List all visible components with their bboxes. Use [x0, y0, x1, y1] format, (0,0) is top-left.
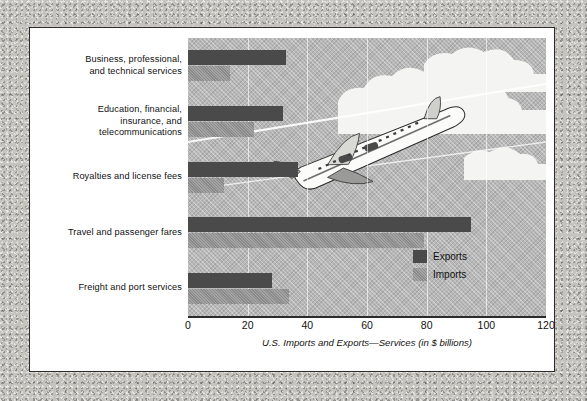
category-label-line: Business, professional,: [32, 54, 182, 66]
axis-caption: U.S. Imports and Exports—Services (in $ …: [188, 337, 546, 348]
category-label-3: Travel and passenger fares: [32, 227, 182, 239]
category-label-line: insurance, and: [32, 116, 182, 128]
bar-exports-1: [188, 106, 283, 121]
legend-label-imports: Imports: [433, 269, 466, 280]
category-label-line: Education, financial,: [32, 104, 182, 116]
category-label-line: Royalties and license fees: [32, 171, 182, 183]
bar-exports-2: [188, 162, 298, 177]
legend-label-exports: Exports: [433, 251, 467, 262]
category-axis-labels: Business, professional,and technical ser…: [30, 28, 188, 308]
category-label-line: telecommunications: [32, 127, 182, 139]
chart-figure: Business, professional,and technical ser…: [29, 27, 555, 372]
legend-swatch-imports: [413, 268, 427, 281]
category-label-1: Education, financial,insurance, andtelec…: [32, 104, 182, 139]
x-axis-ticks: 020406080100120: [188, 319, 546, 335]
legend-swatch-exports: [413, 250, 427, 263]
bar-imports-4: [188, 289, 289, 304]
category-label-line: and technical services: [32, 66, 182, 78]
x-tick-80: 80: [421, 319, 433, 331]
x-tick-20: 20: [242, 319, 254, 331]
gridline: [307, 38, 308, 316]
x-tick-40: 40: [301, 319, 313, 331]
legend-item-exports: Exports: [413, 250, 467, 263]
x-tick-0: 0: [185, 319, 191, 331]
bar-imports-3: [188, 233, 424, 248]
x-axis-line: [188, 316, 546, 318]
bar-exports-3: [188, 217, 471, 232]
category-label-line: Travel and passenger fares: [32, 227, 182, 239]
x-tick-60: 60: [361, 319, 373, 331]
gridline: [367, 38, 368, 316]
page-background: Business, professional,and technical ser…: [0, 0, 587, 401]
category-label-line: Freight and port services: [32, 282, 182, 294]
category-label-2: Royalties and license fees: [32, 171, 182, 183]
bar-imports-0: [188, 66, 230, 81]
legend-item-imports: Imports: [413, 268, 467, 281]
bar-imports-2: [188, 178, 224, 193]
bar-exports-4: [188, 273, 272, 288]
category-label-0: Business, professional,and technical ser…: [32, 54, 182, 77]
category-label-4: Freight and port services: [32, 282, 182, 294]
chart-legend: ExportsImports: [413, 250, 467, 286]
bar-exports-0: [188, 50, 286, 65]
plot-area: [188, 38, 546, 316]
x-tick-120: 120: [537, 319, 555, 331]
gridline: [486, 38, 487, 316]
x-tick-100: 100: [478, 319, 496, 331]
bar-imports-1: [188, 122, 254, 137]
